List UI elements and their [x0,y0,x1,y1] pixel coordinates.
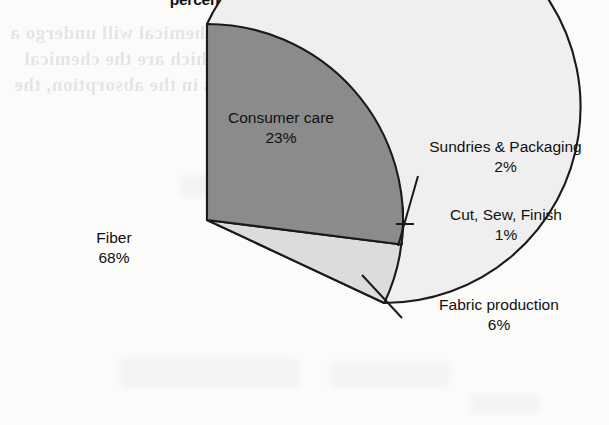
slice-label-consumer-care-pct: 23% [206,128,356,148]
slice-label-sundries-packaging-pct: 2% [402,157,609,177]
slice-label-fabric-production: Fabric production 6% [406,295,592,335]
slice-label-sundries-packaging-name: Sundries & Packaging [429,138,582,155]
slice-label-sundries-packaging: Sundries & Packaging 2% [402,137,609,177]
slice-label-consumer-care-name: Consumer care [228,109,334,126]
slice-label-fabric-production-name: Fabric production [439,296,559,313]
slice-label-cut-sew-finish-name: Cut, Sew, Finish [450,206,562,223]
pie-chart-page: until now every chemical will undergo a … [0,0,609,425]
slice-label-fiber-name: Fiber [96,229,131,246]
slice-label-fabric-production-pct: 6% [406,315,592,335]
slice-label-fiber: Fiber 68% [68,228,160,268]
slice-label-fiber-pct: 68% [68,248,160,268]
slice-label-cut-sew-finish: Cut, Sew, Finish 1% [418,205,594,245]
pie-chart: Consumer care 23% Fiber 68% Sundries & P… [0,0,609,425]
slice-label-cut-sew-finish-pct: 1% [418,225,594,245]
slice-label-consumer-care: Consumer care 23% [206,108,356,148]
